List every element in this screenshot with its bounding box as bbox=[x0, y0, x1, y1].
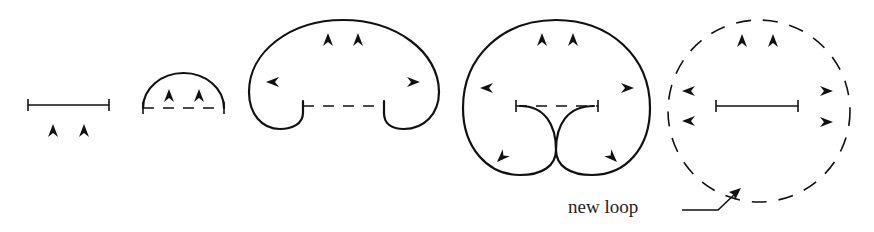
arrow-up-icon bbox=[537, 33, 547, 46]
annotation-pointer bbox=[682, 188, 741, 210]
arrow-down-right-icon bbox=[604, 149, 620, 165]
arrow-down-left-icon bbox=[494, 149, 510, 165]
stage-4 bbox=[463, 20, 650, 175]
new-loop-dashed bbox=[668, 20, 850, 202]
arrow-left-icon bbox=[682, 86, 695, 96]
bow-arc bbox=[143, 73, 224, 108]
diagram-canvas bbox=[0, 0, 874, 232]
arrow-up-icon bbox=[353, 33, 363, 46]
stage-3 bbox=[249, 20, 439, 129]
arrow-up-icon bbox=[79, 124, 89, 137]
arrow-left-icon bbox=[266, 77, 279, 87]
arrow-left-icon bbox=[682, 116, 695, 126]
arrow-up-icon bbox=[164, 89, 174, 102]
arrow-right-icon bbox=[820, 117, 833, 127]
pinching-loop bbox=[463, 20, 650, 175]
arrow-up-icon bbox=[323, 33, 333, 46]
stage-5 bbox=[668, 20, 850, 202]
arrow-up-icon bbox=[768, 34, 778, 47]
stage-2 bbox=[143, 73, 224, 114]
stage-1 bbox=[28, 99, 109, 137]
arrow-right-icon bbox=[621, 83, 634, 93]
arrow-right-icon bbox=[407, 77, 420, 87]
arrow-up-icon bbox=[568, 33, 578, 46]
arrow-up-icon bbox=[194, 89, 204, 102]
arrow-left-icon bbox=[480, 83, 493, 93]
arrow-up-icon bbox=[48, 124, 58, 137]
expanding-loop bbox=[249, 20, 439, 129]
arrow-up-icon bbox=[737, 34, 747, 47]
new-loop-label: new loop bbox=[568, 196, 638, 218]
arrow-right-icon bbox=[820, 86, 833, 96]
